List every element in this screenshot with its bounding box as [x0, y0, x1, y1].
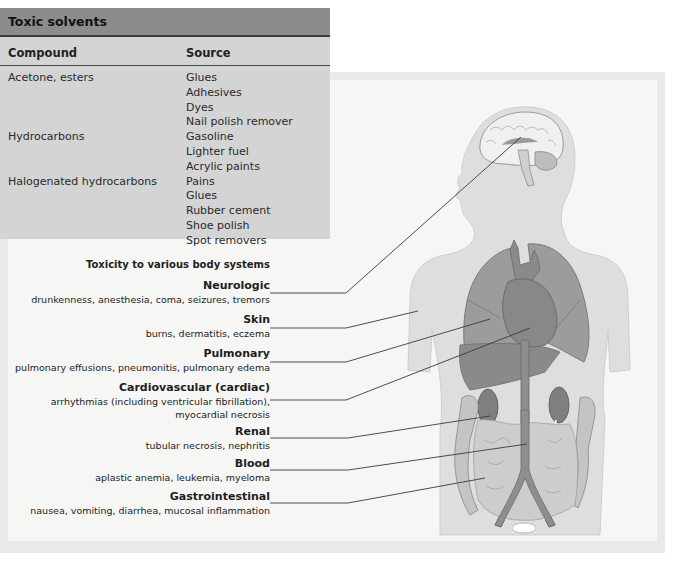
- column-header-compound: Compound: [8, 46, 77, 60]
- source-cell: Glues: [186, 189, 217, 204]
- source-cell: Lighter fuel: [186, 145, 249, 160]
- compound-cell: Halogenated hydrocarbons: [8, 175, 157, 190]
- system-name: Cardiovascular (cardiac): [51, 381, 270, 395]
- source-cell: Acrylic paints: [186, 160, 260, 175]
- system-name: Gastrointestinal: [30, 490, 270, 504]
- system-effects: drunkenness, anesthesia, coma, seizures,…: [31, 293, 270, 306]
- source-cell: Spot removers: [186, 234, 267, 249]
- system-neurologic: Neurologicdrunkenness, anesthesia, coma,…: [31, 279, 270, 306]
- system-name: Pulmonary: [15, 347, 270, 361]
- bladder: [512, 523, 536, 533]
- table-title: Toxic solvents: [0, 8, 330, 37]
- source-cell: Gasoline: [186, 130, 234, 145]
- source-cell: Rubber cement: [186, 204, 270, 219]
- system-name: Blood: [95, 457, 270, 471]
- source-cell: Pains: [186, 175, 215, 190]
- compound-cell: Hydrocarbons: [8, 130, 85, 145]
- toxicity-title: Toxicity to various body systems: [86, 259, 270, 270]
- toxic-solvents-table: Toxic solvents Compound Source Acetone, …: [0, 8, 330, 239]
- left-kidney: [549, 387, 569, 423]
- system-skin: Skinburns, dermatitis, eczema: [146, 313, 270, 340]
- system-effects: burns, dermatitis, eczema: [146, 327, 270, 340]
- system-effects: aplastic anemia, leukemia, myeloma: [95, 471, 270, 484]
- system-blood: Bloodaplastic anemia, leukemia, myeloma: [95, 457, 270, 484]
- system-name: Neurologic: [31, 279, 270, 293]
- system-pulmonary: Pulmonarypulmonary effusions, pneumoniti…: [15, 347, 270, 374]
- compound-cell: Acetone, esters: [8, 71, 94, 86]
- column-header-source: Source: [186, 46, 231, 60]
- source-cell: Shoe polish: [186, 219, 249, 234]
- system-effects: arrhythmias (including ventricular fibri…: [51, 395, 270, 408]
- source-cell: Glues: [186, 71, 217, 86]
- system-cardiovascular: Cardiovascular (cardiac)arrhythmias (inc…: [51, 381, 270, 421]
- leader-line-skin: [270, 311, 418, 328]
- system-name: Skin: [146, 313, 270, 327]
- source-cell: Adhesives: [186, 86, 242, 101]
- system-name: Renal: [146, 425, 270, 439]
- system-effects: tubular necrosis, nephritis: [146, 439, 270, 452]
- system-effects: nausea, vomiting, diarrhea, mucosal infl…: [30, 504, 270, 517]
- system-effects: pulmonary effusions, pneumonitis, pulmon…: [15, 361, 270, 374]
- system-gastrointestinal: Gastrointestinalnausea, vomiting, diarrh…: [30, 490, 270, 517]
- source-cell: Nail polish remover: [186, 115, 293, 130]
- system-effects: myocardial necrosis: [51, 408, 270, 421]
- table-column-headers: Compound Source: [0, 37, 330, 66]
- system-renal: Renaltubular necrosis, nephritis: [146, 425, 270, 452]
- source-cell: Dyes: [186, 101, 213, 116]
